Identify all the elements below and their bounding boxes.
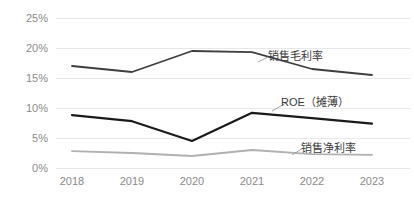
- line-chart: 25% 20% 15% 10% 5% 0% 2018 2019 2020 202…: [0, 0, 414, 204]
- plot-area: [0, 0, 414, 204]
- series-label-gross-margin: 销售毛利率: [268, 50, 323, 62]
- series-line-roe: [72, 113, 372, 141]
- series-line-gross-margin: [72, 51, 372, 75]
- leader-line-gross-margin: [258, 57, 268, 62]
- series-label-roe: ROE（摊薄）: [281, 96, 349, 108]
- series-label-net-margin: 销售净利率: [301, 142, 356, 154]
